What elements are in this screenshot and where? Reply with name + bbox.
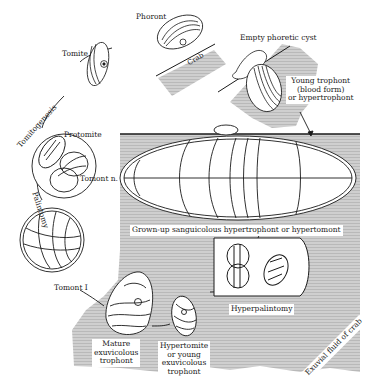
crab-shell [156, 44, 226, 96]
label-mature-exuvicolous-trophont: Mature exuvicolous trophont [92, 339, 140, 367]
label-tomont-n: Tomont n. [80, 175, 118, 184]
label-hypertomite-line4: trophont [160, 368, 208, 377]
label-tomite: Tomite [62, 50, 88, 59]
tomite-cell [84, 40, 113, 87]
hyperpalintomy-box [214, 238, 309, 296]
label-young-trophont-line3: or hypertrophont [288, 94, 353, 103]
label-mature-line3: trophont [94, 357, 138, 366]
label-hypertomite: Hypertomite or young exuvicolous trophon… [158, 341, 210, 378]
tomont-1-cyst [20, 208, 84, 272]
label-young-trophont: Young trophont (blood form) or hypertrop… [286, 76, 355, 104]
tomont-n-cyst [32, 132, 96, 198]
label-protomite: Protomite [64, 131, 102, 140]
label-hyperpalintomy: Hyperpalintomy [229, 304, 294, 315]
mature-trophont-cell [106, 272, 153, 335]
label-empty-phoretic-cyst: Empty phoretic cyst [240, 34, 317, 43]
label-tomont-1: Tomont I [54, 284, 88, 293]
label-grown-up-hypertrophont: Grown-up sanguicolous hypertrophont or h… [130, 225, 343, 236]
label-phoront: Phoront [136, 13, 166, 22]
